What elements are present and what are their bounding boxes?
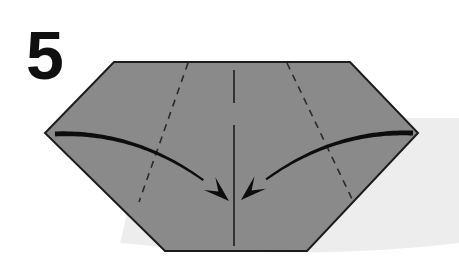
step-number-label: 5 — [26, 17, 64, 93]
origami-step-diagram: 5 — [0, 0, 459, 257]
diagram-canvas: 5 — [0, 0, 459, 257]
